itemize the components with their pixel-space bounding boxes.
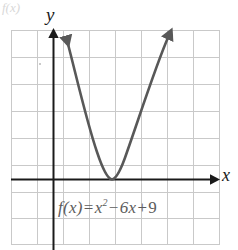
equation-equals: = <box>83 198 95 217</box>
stray-speck <box>39 63 41 65</box>
corner-artifact-text: f(x) <box>2 0 20 16</box>
equation-lhs: f(x) <box>58 198 83 217</box>
equation-term1-base: x <box>95 198 103 217</box>
parabola-graph-figure: f(x) y x f(x)=x2−6x+9 <box>0 0 238 250</box>
equation-op2: + <box>136 198 148 217</box>
equation-term2: 6x <box>120 198 137 217</box>
y-axis-label: y <box>46 5 54 24</box>
equation-term3: 9 <box>148 198 157 217</box>
equation-annotation: f(x)=x2−6x+9 <box>58 198 157 218</box>
equation-op1: − <box>108 198 120 217</box>
x-axis-label: x <box>222 166 230 184</box>
